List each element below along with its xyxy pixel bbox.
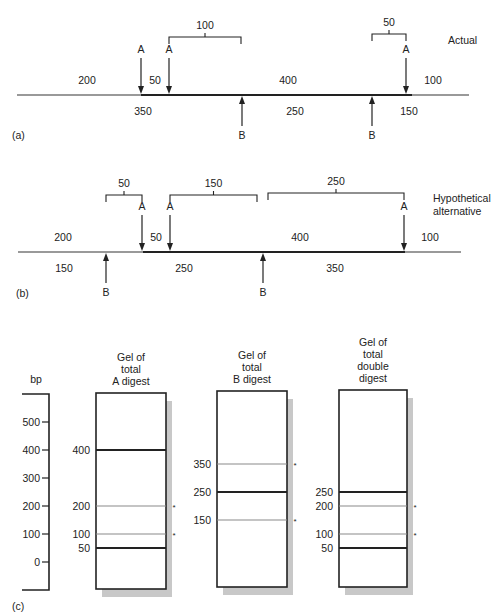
- a-site-label: A: [137, 43, 144, 55]
- panel-c-tag: (c): [12, 600, 24, 612]
- fragment-size-label-top: 50: [149, 74, 161, 86]
- down-arrow-icon: [166, 86, 172, 94]
- bracket-size-label: 150: [205, 177, 223, 189]
- fragment-size-label-top: 50: [150, 231, 162, 243]
- gel-lane-box: [217, 391, 287, 587]
- bracket-size-label: 50: [118, 177, 130, 189]
- panel-a-title: Actual: [448, 34, 477, 46]
- asterisk-marker: *: [413, 503, 416, 512]
- down-arrow-icon: [403, 86, 409, 94]
- fragment-size-label-bottom: 350: [326, 262, 344, 274]
- up-arrow-icon: [260, 253, 266, 261]
- a-site-label: A: [400, 200, 407, 212]
- panel-b-hypothetical-map: AAABB2005040010015025035050150250Hypothe…: [16, 175, 491, 299]
- asterisk-marker: *: [172, 531, 175, 540]
- fragment-size-label-bottom: 250: [286, 105, 304, 117]
- gel-title-line: total: [242, 361, 262, 373]
- b-site-label: B: [238, 129, 245, 141]
- gel-title-line: Gel of: [117, 351, 145, 363]
- bracket-size-label: 50: [383, 16, 395, 28]
- fragment-size-label-top: 200: [54, 231, 72, 243]
- gel-title-line: digest: [359, 372, 387, 384]
- panel-b-tag: (b): [16, 287, 29, 299]
- scale-unit-label: bp: [30, 373, 42, 385]
- gel-lane-box: [96, 393, 166, 589]
- fragment-bracket: [169, 33, 241, 44]
- band-size-label: 200: [72, 500, 90, 512]
- scale-tick-label: 100: [22, 528, 40, 540]
- fragment-size-label-bottom: 150: [55, 262, 73, 274]
- up-arrow-icon: [103, 253, 109, 261]
- gel-title-line: total: [121, 363, 141, 375]
- band-size-label: 100: [315, 528, 333, 540]
- band-size-label: 200: [315, 500, 333, 512]
- gel-title-line: B digest: [233, 373, 271, 385]
- down-arrow-icon: [167, 243, 173, 251]
- panel-b-title-line1: Hypothetical: [433, 192, 491, 204]
- band-size-label: 250: [193, 486, 211, 498]
- fragment-size-label-top: 100: [424, 74, 442, 86]
- fragment-size-label-top: 200: [78, 74, 96, 86]
- band-size-label: 50: [78, 542, 90, 554]
- fragment-size-label-top: 400: [291, 231, 309, 243]
- band-size-label: 250: [315, 486, 333, 498]
- asterisk-marker: *: [293, 461, 296, 470]
- panel-b-title-line2: alternative: [433, 205, 482, 217]
- gel-1: Gel oftotalB digest350*250150*: [193, 349, 296, 595]
- a-site-label: A: [165, 43, 172, 55]
- scale-tick-label: 200: [22, 500, 40, 512]
- up-arrow-icon: [369, 96, 375, 104]
- gel-title-line: Gel of: [238, 349, 266, 361]
- band-size-label: 400: [72, 444, 90, 456]
- gel-2: Gel oftotaldoubledigest250200*100*50: [315, 336, 416, 595]
- band-size-label: 50: [321, 542, 333, 554]
- fragment-size-label-top: 100: [421, 231, 439, 243]
- down-arrow-icon: [139, 243, 145, 251]
- panel-a-tag: (a): [12, 129, 25, 141]
- gel-title-line: Gel of: [359, 336, 387, 348]
- fragment-size-label-bottom: 250: [175, 262, 193, 274]
- scale-tick-label: 400: [22, 444, 40, 456]
- fragment-bracket: [372, 30, 406, 41]
- fragment-size-label-bottom: 150: [400, 105, 418, 117]
- band-size-label: 150: [193, 514, 211, 526]
- b-site-label: B: [259, 286, 266, 298]
- fragment-bracket: [170, 191, 257, 202]
- gel-title-line: double: [357, 360, 389, 372]
- restriction-mapping-diagram: AAABB2005040010035025015010050Actual(a) …: [0, 0, 497, 616]
- a-site-label: A: [402, 43, 409, 55]
- asterisk-marker: *: [293, 517, 296, 526]
- scale-tick-label: 500: [22, 416, 40, 428]
- gel-0: Gel oftotalA digest400200*100*50: [72, 351, 175, 597]
- fragment-bracket: [268, 189, 404, 200]
- b-site-label: B: [368, 129, 375, 141]
- band-size-label: 100: [72, 528, 90, 540]
- gel-title-line: total: [363, 348, 383, 360]
- panel-c-gels: bp5004003002001000Gel oftotalA digest400…: [12, 336, 417, 612]
- down-arrow-icon: [138, 86, 144, 94]
- b-site-label: B: [102, 286, 109, 298]
- asterisk-marker: *: [413, 531, 416, 540]
- fragment-size-label-bottom: 350: [134, 105, 152, 117]
- gel-lane-box: [339, 390, 407, 587]
- scale-tick-label: 300: [22, 472, 40, 484]
- band-size-label: 350: [193, 458, 211, 470]
- fragment-bracket: [106, 191, 142, 202]
- asterisk-marker: *: [172, 503, 175, 512]
- bracket-size-label: 100: [196, 19, 214, 31]
- panel-a-actual-map: AAABB2005040010035025015010050Actual(a): [12, 16, 477, 141]
- bracket-size-label: 250: [327, 175, 345, 187]
- gel-title-line: A digest: [112, 375, 149, 387]
- up-arrow-icon: [239, 96, 245, 104]
- fragment-size-label-top: 400: [279, 74, 297, 86]
- scale-tick-label: 0: [34, 556, 40, 568]
- down-arrow-icon: [401, 243, 407, 251]
